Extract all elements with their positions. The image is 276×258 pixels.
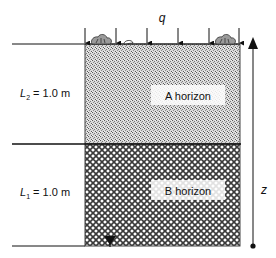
b-horizon-label: B horizon bbox=[165, 185, 211, 197]
plant-icon bbox=[215, 34, 235, 44]
b-thickness-label: L1 = 1.0 m bbox=[20, 186, 70, 200]
origin-dot-icon bbox=[250, 243, 255, 248]
a-horizon-label: A horizon bbox=[165, 90, 211, 102]
soil-profile-diagram: A horizon B horizon q z L2 = 1 bbox=[0, 0, 276, 258]
arrow-up-icon bbox=[248, 37, 258, 49]
depth-label: z bbox=[260, 183, 267, 197]
depth-axis bbox=[248, 37, 258, 249]
a-thickness-label: L2 = 1.0 m bbox=[20, 87, 70, 101]
stone-icon bbox=[124, 40, 133, 44]
a-horizon-layer: A horizon bbox=[85, 44, 240, 144]
plant-icon bbox=[91, 34, 111, 44]
flux-label: q bbox=[159, 11, 166, 25]
b-horizon-layer: B horizon bbox=[85, 144, 240, 246]
